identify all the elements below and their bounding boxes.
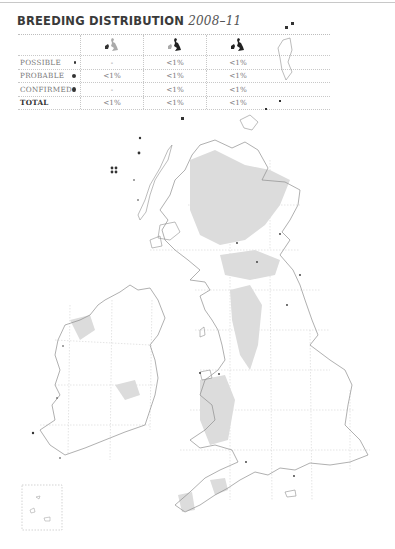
ireland-coastline [40, 285, 165, 455]
inner-hebrides [150, 222, 180, 248]
record-dots [32, 22, 301, 477]
channel-islands-inset [22, 485, 62, 530]
shetland [278, 38, 292, 80]
distribution-map [0, 0, 395, 549]
orkney [240, 115, 258, 130]
anglesey [200, 370, 212, 380]
isle-of-man [200, 327, 205, 337]
upland-shading [70, 150, 290, 512]
isle-of-wight [285, 490, 296, 497]
outer-hebrides [138, 145, 172, 220]
